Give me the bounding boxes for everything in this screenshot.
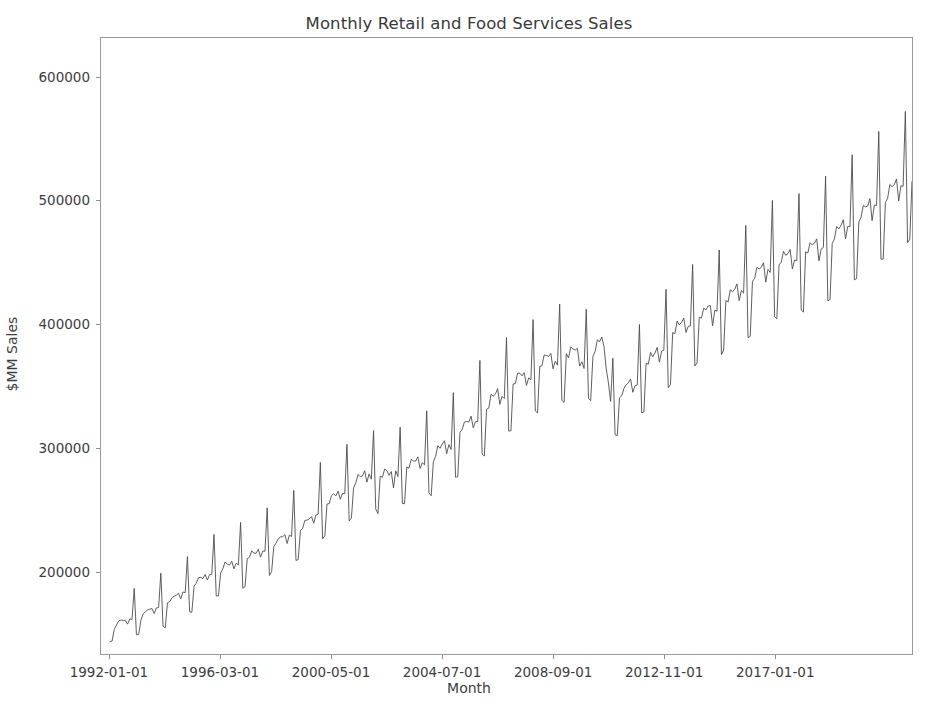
x-tick-label: 2000-05-01 <box>292 664 370 680</box>
chart-figure: Monthly Retail and Food Services Sales $… <box>0 0 938 715</box>
y-tick-label: 300000 <box>10 440 90 456</box>
x-tickmark <box>220 655 221 659</box>
x-tick-label: 2017-01-01 <box>736 664 814 680</box>
y-tick-label: 600000 <box>10 69 90 85</box>
y-tick-label: 200000 <box>10 564 90 580</box>
y-tick-label: 400000 <box>10 316 90 332</box>
x-axis-label: Month <box>0 680 938 696</box>
y-tick-label: 500000 <box>10 192 90 208</box>
x-tickmark <box>775 655 776 659</box>
x-tickmark <box>442 655 443 659</box>
x-tick-label: 2008-09-01 <box>514 664 592 680</box>
x-tickmark <box>553 655 554 659</box>
x-tickmark <box>109 655 110 659</box>
x-tickmark <box>331 655 332 659</box>
x-tick-label: 2004-07-01 <box>403 664 481 680</box>
series-polyline <box>110 67 912 641</box>
x-tick-label: 1992-01-01 <box>70 664 148 680</box>
x-tick-label: 2012-11-01 <box>625 664 703 680</box>
series-line-chart <box>101 38 912 654</box>
plot-area <box>100 37 913 655</box>
x-tickmark <box>664 655 665 659</box>
x-tick-label: 1996-03-01 <box>181 664 259 680</box>
page-title: Monthly Retail and Food Services Sales <box>0 14 938 33</box>
